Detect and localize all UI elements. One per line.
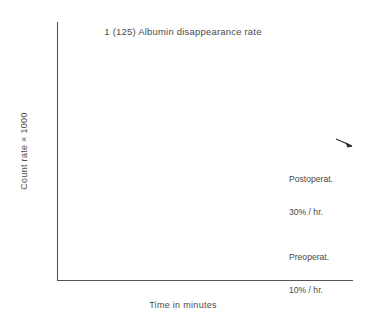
arrow-head xyxy=(346,142,353,147)
annotation-preoperative-rate: 10% / hr. xyxy=(289,285,329,296)
annotation-postoperative-name: Postoperat. xyxy=(289,174,333,185)
series-annotation-postoperative: Postoperat. 30% / hr. xyxy=(289,152,333,229)
postoperative-leader-arrow xyxy=(336,139,353,148)
chart-title: 1 (125) Albumin disappearance rate xyxy=(0,26,366,37)
y-axis-label: Count rate × 1000 xyxy=(19,81,29,221)
annotation-postoperative-rate: 30% / hr. xyxy=(289,207,333,218)
annotation-preoperative-name: Preoperat. xyxy=(289,252,329,263)
series-annotation-preoperative: Preoperat. 10% / hr. xyxy=(289,230,329,307)
